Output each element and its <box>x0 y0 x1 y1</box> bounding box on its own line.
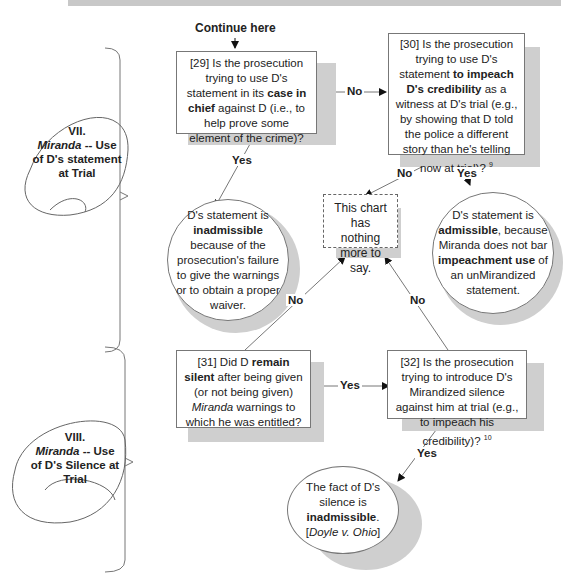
question-29-box: [29] Is the prosecution trying to use D'… <box>176 51 317 134</box>
edge-label-q31-yes: Yes <box>338 379 362 391</box>
section-viii-bracket-tip <box>125 458 133 466</box>
section-viii-number: VIII. <box>30 430 120 444</box>
continue-here-label: Continue here <box>195 21 276 35</box>
result-silence-inadmissible: The fact of D's silence is inadmissible.… <box>287 466 399 554</box>
case-citation: Doyle v. Ohio <box>309 526 377 538</box>
end-box: This chart has nothing more to say. <box>323 194 398 248</box>
q30-footnote: 9 <box>489 161 493 168</box>
edge-label-q29-yes: Yes <box>230 154 254 166</box>
section-viii-title-italic: Miranda <box>35 445 79 457</box>
section-viii-label: VIII. Miranda -- Use of D's Silence at T… <box>30 430 120 486</box>
question-30-box: [30] Is the prosecution trying to use D'… <box>388 33 525 155</box>
result-inadmissible-statement: D's statement is inadmissible because of… <box>167 199 289 321</box>
edge-label-q31-no: No <box>286 294 305 306</box>
question-31-box: [31] Did D remain silent after being giv… <box>176 350 311 428</box>
section-vii-number: VII. <box>32 124 122 138</box>
q32-footnote: 10 <box>484 434 492 441</box>
section-vii-bracket-tip <box>120 192 128 200</box>
section-vii-title-italic: Miranda <box>37 139 81 151</box>
question-32-box: [32] Is the prosecution trying to introd… <box>387 350 527 419</box>
edge-label-q29-no: No <box>345 85 364 97</box>
section-vii-label: VII. Miranda -- Use of D's statement at … <box>32 124 122 180</box>
edge-label-q32-no: No <box>408 294 427 306</box>
edge-label-q30-yes: Yes <box>455 167 479 179</box>
result-admissible-statement: D's statement is admissible, because Mir… <box>432 192 554 314</box>
edge-label-q32-yes: Yes <box>415 447 439 459</box>
edge-label-q30-no: No <box>395 167 414 179</box>
